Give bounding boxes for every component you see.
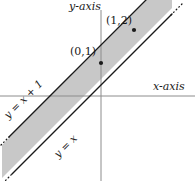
point-marker-0-1 bbox=[99, 61, 103, 65]
x-axis-label: x-axis bbox=[153, 81, 185, 92]
point-marker-1-2 bbox=[132, 28, 136, 32]
point-label-0-1: (0,1) bbox=[70, 46, 96, 57]
graph-figure: y-axis x-axis (0,1) (1,2) y = x + 1 y = … bbox=[0, 0, 195, 181]
lower-line-dotted-upper-extension bbox=[171, 4, 182, 15]
y-axis-label: y-axis bbox=[69, 1, 101, 12]
point-label-1-2: (1,2) bbox=[106, 15, 132, 26]
